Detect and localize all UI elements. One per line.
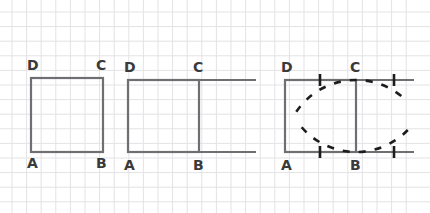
square-abcd (31, 78, 103, 152)
arc-centered-at-B (296, 80, 407, 112)
vertex-label-a-panel-1: A (27, 156, 38, 170)
figure-canvas: DCABDCABDCAB (0, 0, 430, 213)
vertex-label-b-panel-2: B (193, 158, 204, 172)
vertex-label-c-panel-1: C (96, 58, 106, 72)
vertex-label-c-panel-3: C (350, 60, 360, 74)
panel-square-with-compass-arcs (285, 74, 414, 158)
panel-square-with-extended-sides (128, 80, 256, 152)
arc-centered-at-C (296, 120, 407, 152)
vertex-label-b-panel-1: B (96, 156, 107, 170)
vertex-label-a-panel-2: A (124, 158, 135, 172)
vertex-label-d-panel-1: D (27, 58, 39, 72)
square-abcd (128, 80, 199, 152)
figure-artwork (0, 0, 430, 213)
panel-square-only (31, 78, 103, 152)
vertex-label-a-panel-3: A (281, 158, 292, 172)
vertex-label-d-panel-3: D (281, 60, 293, 74)
vertex-label-c-panel-2: C (193, 60, 203, 74)
vertex-label-d-panel-2: D (124, 60, 136, 74)
vertex-label-b-panel-3: B (350, 158, 361, 172)
